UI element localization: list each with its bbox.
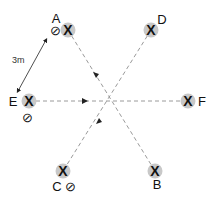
node-b[interactable]: X B — [148, 163, 163, 192]
x-mark-icon: X — [146, 22, 156, 38]
null-symbol-icon: ⊘ — [22, 110, 33, 125]
x-mark-icon: X — [24, 93, 34, 109]
dimension-label: 3m — [12, 55, 25, 65]
node-a[interactable]: X A ⊘ — [50, 11, 76, 38]
x-mark-icon: X — [183, 93, 193, 109]
null-symbol-icon: ⊘ — [65, 179, 76, 194]
arrow-from-c-icon — [96, 118, 102, 124]
connection-lines — [29, 30, 188, 171]
node-e-label: E — [9, 94, 18, 109]
null-symbol-icon: ⊘ — [50, 23, 61, 38]
x-mark-icon: X — [58, 163, 68, 179]
node-d-label: D — [157, 12, 166, 27]
node-d[interactable]: X D — [144, 12, 167, 38]
dimension-arrow — [18, 40, 46, 91]
node-c[interactable]: X C ⊘ — [52, 163, 75, 194]
node-e[interactable]: X E ⊘ — [9, 93, 37, 125]
x-mark-icon: X — [63, 22, 73, 38]
arrow-from-e-icon — [82, 98, 88, 104]
node-f[interactable]: X F — [181, 93, 207, 109]
arrow-from-a-icon — [93, 72, 99, 78]
node-c-label: C — [52, 179, 61, 194]
node-b-label: B — [153, 177, 162, 192]
formation-diagram: 3m X A ⊘ X D X E ⊘ X F X C ⊘ X B — [0, 0, 213, 199]
node-f-label: F — [198, 94, 206, 109]
